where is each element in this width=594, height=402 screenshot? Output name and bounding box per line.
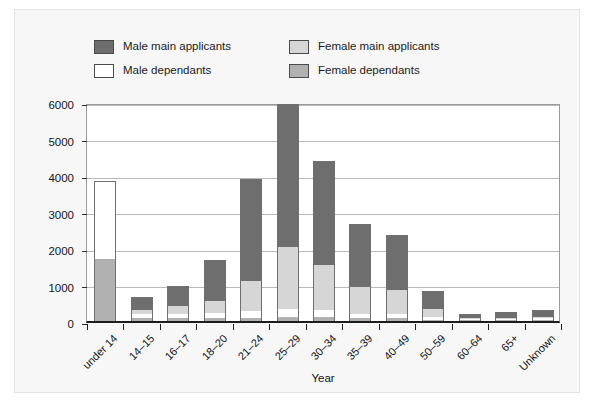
bar-segment [167,286,189,306]
bar-segment [386,290,408,314]
x-axis-tick [160,324,161,330]
bar-segment [532,320,554,321]
y-axis-tick [82,141,87,142]
y-axis-tick-label: 2000 [28,245,74,257]
legend-item: Male dependants [94,60,211,82]
bar-segment [495,320,517,321]
bar-segment [313,317,335,321]
bar-segment [277,104,299,247]
bar-segment [94,259,116,321]
bar-segment [204,260,226,301]
plot-frame: 0100020003000400050006000under 1414–1516… [86,104,560,323]
x-axis-title: Year [86,372,560,384]
bar [532,310,554,321]
x-axis-tick [342,324,343,330]
x-axis-tick [379,324,380,330]
bar-segment [204,301,226,313]
x-axis-tick [488,324,489,330]
bar-segment [167,306,189,314]
bar-segment [167,318,189,321]
bar-segment [131,297,153,309]
bar [204,260,226,321]
y-axis-tick [82,214,87,215]
bar-segment [422,320,444,321]
legend-item: Female dependants [289,60,420,82]
legend-item-label: Male dependants [123,65,211,77]
bar-segment [240,281,262,311]
bar-segment [349,318,371,321]
legend-item-label: Female main applicants [318,41,439,53]
chart-figure: Male main applicantsFemale main applican… [14,9,580,393]
bar-segment [386,318,408,321]
bar-segment [349,287,371,314]
y-axis-tick-label: 0 [28,318,74,330]
y-axis-tick-label: 1000 [28,282,74,294]
bar [240,179,262,321]
y-axis-tick [82,287,87,288]
bar [495,312,517,321]
gridline [87,105,559,106]
bar-segment [349,224,371,287]
bar [349,224,371,321]
legend-swatch-icon [289,40,309,54]
bar [313,161,335,321]
x-axis-tick [233,324,234,330]
y-axis-tick [82,251,87,252]
x-axis-tick [561,324,562,330]
y-axis-tick-label: 6000 [28,99,74,111]
bar [459,314,481,321]
bar-segment [240,311,262,318]
legend-swatch-icon [289,64,309,78]
bar-segment [204,313,226,318]
bar-segment [459,319,481,320]
x-axis-tick [415,324,416,330]
legend-item: Male main applicants [94,36,231,58]
bar-segment [495,312,517,318]
bar-segment [532,317,554,318]
bar [94,181,116,321]
bar-segment [386,314,408,318]
bar-segment [131,310,153,314]
plot-area [87,105,559,321]
y-axis-tick-label: 5000 [28,136,74,148]
bar-segment [495,319,517,320]
legend-item-label: Female dependants [318,65,420,77]
bar-segment [532,318,554,319]
legend-item: Female main applicants [289,36,439,58]
bar-segment [277,309,299,317]
bar-segment [459,318,481,319]
bar-segment [240,318,262,321]
x-axis-tick [87,324,88,330]
x-axis-tick [306,324,307,330]
bar-segment [277,317,299,321]
bar-segment [167,314,189,318]
bar-segment [386,235,408,289]
x-axis-tick [123,324,124,330]
bar-segment [240,179,262,280]
x-axis-tick [269,324,270,330]
bar-segment [277,247,299,309]
bar [386,235,408,321]
bar [422,291,444,321]
bar-segment [459,314,481,318]
bar-segment [495,318,517,319]
bar-segment [313,265,335,311]
y-axis-tick-label: 4000 [28,172,74,184]
bar-segment [94,181,116,259]
x-axis-tick [196,324,197,330]
bar-segment [532,310,554,317]
bar [167,286,189,321]
legend-swatch-icon [94,64,114,78]
bar-segment [131,314,153,318]
bar-segment [459,320,481,321]
bar-segment [422,309,444,317]
bar [131,297,153,321]
bar-segment [204,318,226,321]
x-axis-tick [452,324,453,330]
bar-segment [313,161,335,265]
legend-item-label: Male main applicants [123,41,231,53]
y-axis-tick [82,178,87,179]
bar-segment [349,314,371,319]
x-axis-tick [525,324,526,330]
gridline [87,141,559,142]
